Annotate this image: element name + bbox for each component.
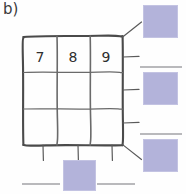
grid-cell-value-r1c3: 9 xyxy=(95,50,117,64)
grid-border-bottom xyxy=(23,145,122,146)
diagonal-leader-lines xyxy=(123,22,142,160)
diagonal-leader-top xyxy=(123,22,142,37)
grid-hline-1 xyxy=(24,72,123,73)
answer-box-bottom-center[interactable] xyxy=(63,160,96,191)
grid-hline-2 xyxy=(23,109,122,110)
answer-rule-bottom-right xyxy=(97,183,135,185)
grid-border-left xyxy=(23,37,24,145)
answer-box-right-middle[interactable] xyxy=(143,72,178,105)
grid-cell-value-r1c2: 8 xyxy=(62,50,84,64)
answer-box-right-top[interactable] xyxy=(143,5,178,38)
grid-vline-1 xyxy=(57,36,58,145)
diagonal-leader-bottom xyxy=(123,145,142,160)
grid-cell-value-r1c1: 7 xyxy=(29,50,51,64)
grid-border-top xyxy=(24,36,123,37)
answer-box-right-bottom[interactable] xyxy=(143,139,178,172)
right-tick-1 xyxy=(123,56,139,57)
right-tick-marks xyxy=(123,56,139,123)
bottom-tick-marks xyxy=(43,145,112,161)
grid-vline-2 xyxy=(90,36,91,145)
answer-rule-right-middle xyxy=(140,66,182,68)
answer-rule-right-bottom xyxy=(140,133,182,135)
worksheet-figure: b) xyxy=(0,0,186,194)
right-tick-2 xyxy=(123,89,139,90)
right-tick-3 xyxy=(123,122,139,123)
answer-rule-bottom-left xyxy=(22,183,60,185)
